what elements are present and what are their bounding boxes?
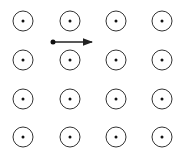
field-out-of-page-icon [152,11,172,31]
charged-particle [51,40,93,45]
field-out-of-page-icon [106,89,126,109]
field-out-of-page-icon [13,50,33,70]
field-out-of-page-icon [13,127,33,147]
field-out-of-page-icon [13,89,33,109]
field-out-of-page-icon [106,50,126,70]
field-out-of-page-icon [60,127,80,147]
field-out-of-page-icon [152,50,172,70]
field-out-of-page-icon [106,11,126,31]
field-out-of-page-icon [152,89,172,109]
magnetic-field-diagram [0,0,186,153]
field-out-of-page-icon [152,127,172,147]
field-out-of-page-icon [60,89,80,109]
field-out-of-page-grid [13,11,172,147]
field-out-of-page-icon [60,50,80,70]
field-out-of-page-icon [60,11,80,31]
field-out-of-page-icon [13,11,33,31]
field-out-of-page-icon [106,127,126,147]
particle-dot-icon [51,40,56,45]
